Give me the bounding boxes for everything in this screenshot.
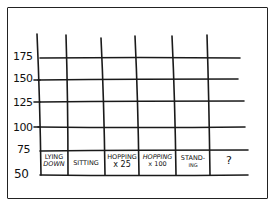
chart-grid [0,0,275,206]
y-tick-75: 75 [17,143,30,156]
category-lying-down: LYING DOWN [41,154,67,168]
y-tick-100: 100 [13,121,33,134]
y-tick-150: 150 [13,72,33,85]
category-unknown: ? [210,155,248,167]
y-tick-175: 175 [13,50,33,63]
y-tick-125: 125 [13,96,33,109]
category-sitting: SITTING [68,160,104,167]
category-hopping-x100: HOPPING x 100 [139,154,176,168]
category-standing: STAND- ING [176,155,210,169]
y-tick-50: 50 [14,167,28,181]
category-hopping-x25: HOPPING x 25 [105,154,139,168]
